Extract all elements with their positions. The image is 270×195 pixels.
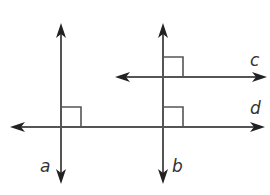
right-angle-marker-b-c (163, 57, 183, 77)
right-angle-marker-a-d (61, 107, 81, 127)
right-angle-marker-b-d (163, 107, 183, 127)
line-d (10, 122, 265, 132)
label-d: d (250, 98, 261, 118)
label-b: b (172, 156, 183, 176)
label-a: a (40, 156, 50, 176)
line-b (158, 23, 168, 184)
line-a (56, 23, 66, 184)
lines-diagram: a b c d (0, 0, 270, 195)
line-c (115, 72, 267, 82)
label-c: c (250, 50, 260, 70)
